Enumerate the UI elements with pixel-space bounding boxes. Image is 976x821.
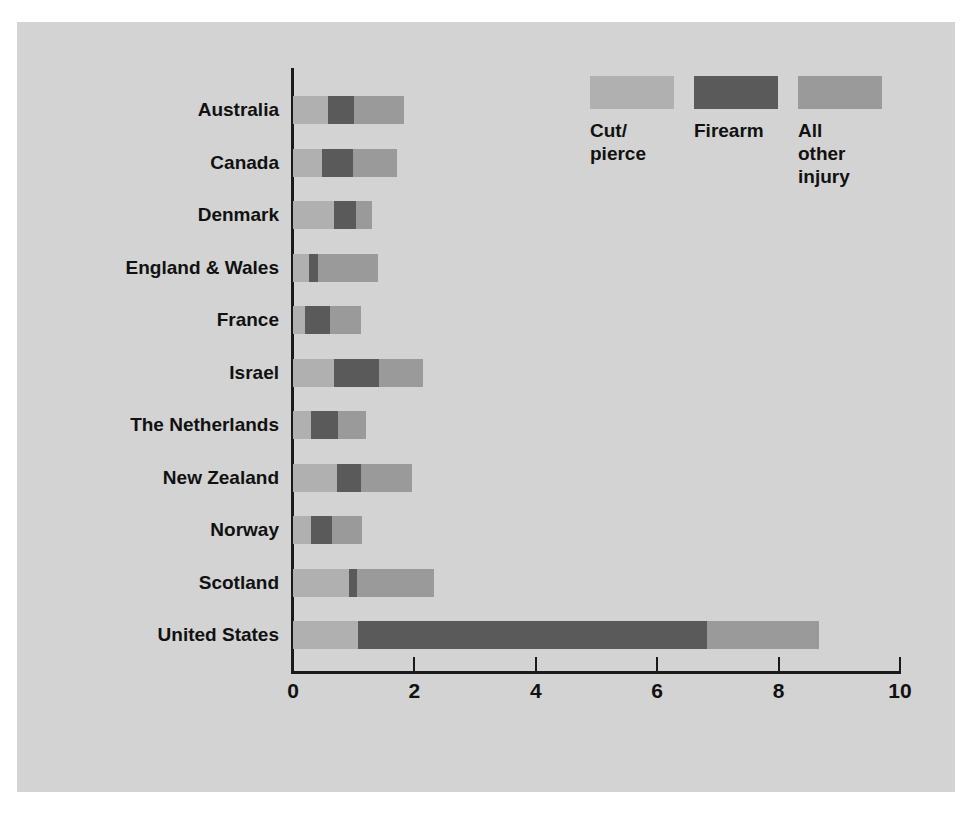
- legend-label-firearm: Firearm: [694, 119, 790, 142]
- bar-row: United States: [17, 609, 955, 661]
- bar-segment-firearm: [328, 96, 354, 124]
- legend-swatch-cut-pierce: [590, 76, 674, 109]
- bar-segment-all-other-injury: [357, 569, 434, 597]
- bar-segment-cut-pierce: [293, 516, 311, 544]
- bar-segment-firearm: [322, 149, 353, 177]
- category-label-scotland: Scotland: [17, 557, 279, 609]
- bar-segment-cut-pierce: [293, 464, 337, 492]
- category-label-new-zealand: New Zealand: [17, 452, 279, 504]
- bar-segment-firearm: [334, 201, 355, 229]
- category-label-israel: Israel: [17, 347, 279, 399]
- legend-label-all-other: Allotherinjury: [798, 119, 894, 188]
- bar-segment-all-other-injury: [330, 306, 361, 334]
- bar-segment-firearm: [305, 306, 330, 334]
- category-label-france: France: [17, 294, 279, 346]
- category-label-norway: Norway: [17, 504, 279, 556]
- bar-row: Scotland: [17, 557, 955, 609]
- bar-row: England & Wales: [17, 242, 955, 294]
- bar-segment-cut-pierce: [293, 201, 334, 229]
- bar-segment-all-other-injury: [354, 96, 404, 124]
- bar-segment-firearm: [337, 464, 361, 492]
- category-label-united-states: United States: [17, 609, 279, 661]
- bar-row: New Zealand: [17, 452, 955, 504]
- chart-legend: Cut/pierce Firearm Allotherinjury: [570, 76, 910, 226]
- bar-segment-cut-pierce: [293, 254, 309, 282]
- x-tick-label-10: 10: [870, 679, 930, 703]
- plot-area: 0246810 AustraliaCanadaDenmarkEngland & …: [17, 22, 955, 792]
- stacked-bar: [293, 516, 362, 544]
- x-tick-label-8: 8: [749, 679, 809, 703]
- stacked-bar: [293, 96, 404, 124]
- bar-row: The Netherlands: [17, 399, 955, 451]
- bar-segment-all-other-injury: [361, 464, 412, 492]
- stacked-bar: [293, 411, 366, 439]
- stacked-bar: [293, 464, 412, 492]
- stacked-bar: [293, 359, 423, 387]
- x-tick-label-0: 0: [263, 679, 323, 703]
- x-axis-line: [291, 671, 901, 674]
- bar-segment-firearm: [358, 621, 707, 649]
- bar-segment-all-other-injury: [707, 621, 819, 649]
- legend-swatch-firearm: [694, 76, 778, 109]
- category-label-england-wales: England & Wales: [17, 242, 279, 294]
- category-label-the-netherlands: The Netherlands: [17, 399, 279, 451]
- legend-item-firearm: Firearm: [694, 76, 790, 142]
- bar-segment-all-other-injury: [332, 516, 362, 544]
- category-label-australia: Australia: [17, 84, 279, 136]
- x-tick-label-2: 2: [384, 679, 444, 703]
- stacked-bar: [293, 306, 361, 334]
- bar-segment-firearm: [311, 411, 338, 439]
- bar-segment-cut-pierce: [293, 621, 358, 649]
- legend-item-all-other-injury: Allotherinjury: [798, 76, 894, 188]
- bar-segment-firearm: [349, 569, 357, 597]
- legend-swatch-all-other: [798, 76, 882, 109]
- bar-segment-firearm: [334, 359, 379, 387]
- bar-segment-firearm: [309, 254, 318, 282]
- bar-segment-cut-pierce: [293, 149, 322, 177]
- x-tick-label-4: 4: [506, 679, 566, 703]
- bar-row: Norway: [17, 504, 955, 556]
- stacked-bar: [293, 149, 397, 177]
- category-label-denmark: Denmark: [17, 189, 279, 241]
- bar-segment-cut-pierce: [293, 306, 305, 334]
- bar-segment-cut-pierce: [293, 96, 328, 124]
- bar-segment-all-other-injury: [338, 411, 366, 439]
- bar-segment-cut-pierce: [293, 569, 349, 597]
- stacked-bar: [293, 621, 819, 649]
- bar-segment-all-other-injury: [353, 149, 397, 177]
- bar-segment-all-other-injury: [318, 254, 378, 282]
- chart-figure: 0246810 AustraliaCanadaDenmarkEngland & …: [17, 22, 955, 792]
- bar-row: France: [17, 294, 955, 346]
- bar-segment-all-other-injury: [356, 201, 372, 229]
- category-label-canada: Canada: [17, 137, 279, 189]
- legend-item-cut-pierce: Cut/pierce: [590, 76, 686, 165]
- stacked-bar: [293, 569, 434, 597]
- bar-segment-cut-pierce: [293, 359, 334, 387]
- bar-row: Israel: [17, 347, 955, 399]
- stacked-bar: [293, 254, 378, 282]
- legend-label-cut-pierce: Cut/pierce: [590, 119, 686, 165]
- x-tick-label-6: 6: [627, 679, 687, 703]
- bar-segment-all-other-injury: [379, 359, 423, 387]
- bar-segment-firearm: [311, 516, 332, 544]
- stacked-bar: [293, 201, 372, 229]
- bar-segment-cut-pierce: [293, 411, 311, 439]
